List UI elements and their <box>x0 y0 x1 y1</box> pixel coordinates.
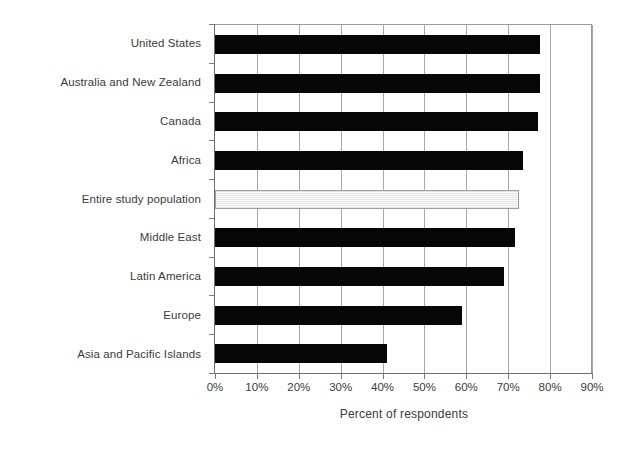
category-label-latin-america: Latin America <box>130 270 201 282</box>
bar-australia-and-new-zealand <box>215 74 540 93</box>
category-label-row: United States <box>0 24 208 63</box>
bar-row <box>215 64 591 103</box>
bar-row <box>215 218 591 257</box>
category-label-row: Middle East <box>0 218 208 257</box>
category-label-entire-study-population: Entire study population <box>82 193 201 205</box>
category-label-row: Entire study population <box>0 179 208 218</box>
x-tick <box>592 374 593 379</box>
x-tick <box>383 374 384 379</box>
bar-row <box>215 257 591 296</box>
bar-row <box>215 25 591 64</box>
category-label-canada: Canada <box>160 115 201 127</box>
x-tick <box>341 374 342 379</box>
category-label-united-states: United States <box>131 37 201 49</box>
bar-latin-america <box>215 267 504 286</box>
y-tick <box>209 373 214 374</box>
x-tick-label-40%: 40% <box>371 381 394 393</box>
x-tick-label-60%: 60% <box>455 381 478 393</box>
bar-europe <box>215 306 462 325</box>
x-tick <box>424 374 425 379</box>
bar-chart: United States Australia and New Zealand … <box>0 0 637 451</box>
category-label-row: Canada <box>0 102 208 141</box>
x-tick <box>550 374 551 379</box>
bar-row <box>215 102 591 141</box>
x-tick-label-70%: 70% <box>497 381 520 393</box>
x-tick <box>215 374 216 379</box>
category-label-row: Africa <box>0 140 208 179</box>
x-tick-label-20%: 20% <box>287 381 310 393</box>
bar-row <box>215 141 591 180</box>
bar-row <box>215 334 591 373</box>
y-tick <box>209 334 214 335</box>
category-label-row: Australia and New Zealand <box>0 63 208 102</box>
y-tick <box>209 295 214 296</box>
y-tick <box>209 63 214 64</box>
x-axis-line <box>215 373 593 374</box>
category-label-africa: Africa <box>171 154 201 166</box>
bar-row <box>215 180 591 219</box>
category-axis: United States Australia and New Zealand … <box>0 24 208 373</box>
bar-africa <box>215 151 523 170</box>
category-label-asia-and-pacific-islands: Asia and Pacific Islands <box>77 348 201 360</box>
y-tick <box>209 257 214 258</box>
x-tick-label-0%: 0% <box>207 381 224 393</box>
y-tick <box>209 140 214 141</box>
x-tick-label-50%: 50% <box>413 381 436 393</box>
category-label-europe: Europe <box>163 309 201 321</box>
gridline-90% <box>592 25 593 373</box>
x-axis-title: Percent of respondents <box>215 407 593 421</box>
y-tick <box>209 218 214 219</box>
x-tick-label-90%: 90% <box>580 381 603 393</box>
category-label-row: Asia and Pacific Islands <box>0 334 208 373</box>
x-tick <box>257 374 258 379</box>
bar-entire-study-population <box>215 190 519 209</box>
x-tick-label-10%: 10% <box>245 381 268 393</box>
bar-united-states <box>215 35 540 54</box>
bar-row <box>215 296 591 335</box>
y-tick <box>209 179 214 180</box>
x-tick-label-30%: 30% <box>329 381 352 393</box>
bar-asia-and-pacific-islands <box>215 344 387 363</box>
category-label-row: Latin America <box>0 257 208 296</box>
x-tick-label-80%: 80% <box>539 381 562 393</box>
x-tick <box>466 374 467 379</box>
plot-area <box>215 24 592 373</box>
bar-canada <box>215 112 538 131</box>
y-tick <box>209 24 214 25</box>
x-tick <box>508 374 509 379</box>
category-label-australia-and-new-zealand: Australia and New Zealand <box>60 76 201 88</box>
bars-layer <box>215 25 591 373</box>
y-tick <box>209 102 214 103</box>
bar-middle-east <box>215 228 515 247</box>
category-label-middle-east: Middle East <box>140 231 201 243</box>
x-tick <box>299 374 300 379</box>
category-label-row: Europe <box>0 295 208 334</box>
